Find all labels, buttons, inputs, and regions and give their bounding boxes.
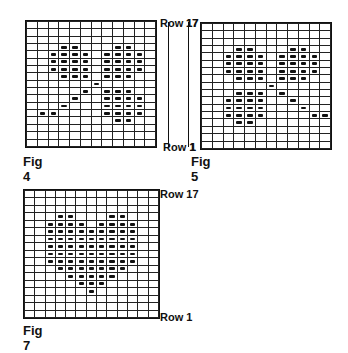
grid-cell xyxy=(55,198,65,205)
grid-cell xyxy=(35,310,45,318)
grid-cell xyxy=(309,31,320,38)
stitch-cell xyxy=(59,58,70,65)
stitch-cell xyxy=(97,258,107,265)
stitch-cell xyxy=(127,258,137,265)
stitch-cell xyxy=(288,68,299,75)
grid-cell xyxy=(202,90,213,97)
grid-cell xyxy=(86,213,96,220)
grid-cell xyxy=(59,110,70,117)
grid-cell xyxy=(148,235,158,242)
stitch-cell xyxy=(97,228,107,235)
grid-cell xyxy=(266,31,277,38)
grid-cell xyxy=(320,31,331,38)
grid-cell xyxy=(266,90,277,97)
grid-cell xyxy=(298,134,309,141)
grid-cell xyxy=(202,60,213,67)
grid-cell xyxy=(27,124,38,131)
grid-cell xyxy=(66,198,76,205)
grid-cell xyxy=(277,82,288,89)
stitch-cell xyxy=(277,75,288,82)
grid-cell xyxy=(102,22,113,29)
grid-cell xyxy=(113,36,124,43)
stitch-cell xyxy=(288,46,299,53)
grid-cell xyxy=(25,220,35,227)
stitch-cell xyxy=(66,220,76,227)
stitch-cell xyxy=(55,265,65,272)
grid-cell xyxy=(223,82,234,89)
stitch-cell xyxy=(117,265,127,272)
stitch-cell xyxy=(80,51,91,58)
stitch-cell xyxy=(97,265,107,272)
stitch-cell xyxy=(134,102,145,109)
stitch-cell xyxy=(123,44,134,51)
grid-cell xyxy=(117,310,127,318)
stitch-cell xyxy=(245,68,256,75)
grid-cell xyxy=(298,126,309,133)
stitch-cell xyxy=(107,213,117,220)
grid-cell xyxy=(48,102,59,109)
grid-cell xyxy=(91,95,102,102)
stitch-cell xyxy=(70,95,81,102)
grid-cell xyxy=(102,36,113,43)
grid-cell xyxy=(138,205,148,212)
stitch-cell xyxy=(55,258,65,265)
grid-cell xyxy=(255,82,266,89)
stitch-cell xyxy=(309,112,320,119)
stitch-cell xyxy=(76,243,86,250)
grid-cell xyxy=(212,82,223,89)
grid-cell xyxy=(55,273,65,280)
stitch-cell xyxy=(288,60,299,67)
stitch-cell xyxy=(97,250,107,257)
stitch-cell xyxy=(66,250,76,257)
grid-cell xyxy=(80,95,91,102)
stitch-cell xyxy=(245,119,256,126)
grid-cell xyxy=(123,22,134,29)
grid-cell xyxy=(202,112,213,119)
grid-cell xyxy=(25,235,35,242)
grid-cell xyxy=(55,191,65,198)
stitch-cell xyxy=(298,68,309,75)
stitch-cell xyxy=(66,213,76,220)
stitch-cell xyxy=(123,66,134,73)
grid-cell xyxy=(266,112,277,119)
grid-row xyxy=(27,117,156,124)
stitch-cell xyxy=(277,60,288,67)
grid-cell xyxy=(123,124,134,131)
grid-cell xyxy=(25,198,35,205)
grid-cell xyxy=(145,73,156,80)
grid-cell xyxy=(138,213,148,220)
stitch-cell xyxy=(298,53,309,60)
grid-cell xyxy=(277,134,288,141)
grid-cell xyxy=(145,110,156,117)
grid-cell xyxy=(234,126,245,133)
grid-cell xyxy=(48,22,59,29)
stitch-cell xyxy=(134,58,145,65)
grid-cell xyxy=(48,124,59,131)
grid-cell xyxy=(37,36,48,43)
grid-cell xyxy=(288,119,299,126)
grid-cell xyxy=(37,139,48,147)
grid-cell xyxy=(113,139,124,147)
grid-cell xyxy=(123,80,134,87)
grid-cell xyxy=(212,38,223,45)
grid-row xyxy=(27,88,156,95)
stitch-cell xyxy=(288,53,299,60)
stitch-cell xyxy=(59,44,70,51)
stitch-cell xyxy=(123,88,134,95)
grid-cell xyxy=(234,141,245,149)
grid-row xyxy=(25,303,159,310)
grid-row xyxy=(27,36,156,43)
grid-cell xyxy=(97,295,107,302)
grid-cell xyxy=(212,68,223,75)
stitch-cell xyxy=(113,102,124,109)
stitch-cell xyxy=(123,110,134,117)
stitch-cell xyxy=(102,66,113,73)
grid-row xyxy=(25,295,159,302)
grid-cell xyxy=(148,198,158,205)
stitch-cell xyxy=(127,235,137,242)
grid-cell xyxy=(102,117,113,124)
stitch-cell xyxy=(234,90,245,97)
grid-cell xyxy=(145,88,156,95)
grid-cell xyxy=(255,46,266,53)
grid-cell xyxy=(127,273,137,280)
